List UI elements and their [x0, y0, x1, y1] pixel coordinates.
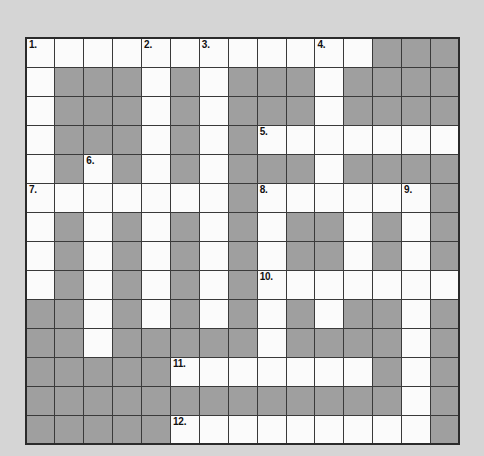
- crossword-cell-open[interactable]: [142, 96, 171, 125]
- crossword-cell-open[interactable]: [142, 212, 171, 241]
- crossword-cell-open[interactable]: [228, 357, 257, 386]
- crossword-cell-open[interactable]: [199, 183, 228, 212]
- crossword-cell-open[interactable]: [402, 328, 431, 357]
- crossword-cell-open[interactable]: [286, 357, 315, 386]
- crossword-cell-open[interactable]: [84, 299, 113, 328]
- crossword-cell-open[interactable]: 11.: [170, 357, 199, 386]
- crossword-cell-open[interactable]: [315, 67, 344, 96]
- crossword-cell-open[interactable]: 4.: [315, 38, 344, 67]
- crossword-cell-open[interactable]: [228, 38, 257, 67]
- crossword-cell-open[interactable]: [315, 183, 344, 212]
- crossword-cell-open[interactable]: [228, 415, 257, 444]
- crossword-cell-open[interactable]: [199, 299, 228, 328]
- crossword-cell-open[interactable]: [315, 357, 344, 386]
- crossword-cell-open[interactable]: [142, 270, 171, 299]
- crossword-cell-open[interactable]: [142, 183, 171, 212]
- crossword-cell-open[interactable]: [199, 96, 228, 125]
- crossword-cell-open[interactable]: 3.: [199, 38, 228, 67]
- crossword-cell-open[interactable]: [199, 67, 228, 96]
- crossword-cell-open[interactable]: [373, 415, 402, 444]
- crossword-cell-open[interactable]: [113, 38, 142, 67]
- crossword-cell-open[interactable]: 12.: [170, 415, 199, 444]
- crossword-cell-open[interactable]: [170, 183, 199, 212]
- crossword-cell-open[interactable]: [344, 415, 373, 444]
- crossword-cell-open[interactable]: [344, 241, 373, 270]
- crossword-cell-open[interactable]: 10.: [257, 270, 286, 299]
- crossword-cell-open[interactable]: [142, 125, 171, 154]
- crossword-cell-open[interactable]: [373, 270, 402, 299]
- crossword-cell-open[interactable]: 9.: [402, 183, 431, 212]
- crossword-cell-open[interactable]: [286, 183, 315, 212]
- crossword-cell-open[interactable]: [199, 241, 228, 270]
- crossword-cell-open[interactable]: [199, 212, 228, 241]
- crossword-cell-open[interactable]: [286, 125, 315, 154]
- crossword-cell-open[interactable]: [257, 212, 286, 241]
- crossword-cell-open[interactable]: [84, 212, 113, 241]
- crossword-cell-open[interactable]: [315, 415, 344, 444]
- crossword-cell-open[interactable]: [257, 357, 286, 386]
- crossword-cell-open[interactable]: 6.: [84, 154, 113, 183]
- crossword-cell-open[interactable]: 1.: [26, 38, 55, 67]
- crossword-cell-open[interactable]: [344, 270, 373, 299]
- crossword-cell-open[interactable]: [26, 241, 55, 270]
- crossword-cell-open[interactable]: 5.: [257, 125, 286, 154]
- crossword-cell-open[interactable]: [286, 415, 315, 444]
- crossword-cell-open[interactable]: [402, 357, 431, 386]
- crossword-cell-open[interactable]: [286, 38, 315, 67]
- crossword-cell-open[interactable]: [142, 241, 171, 270]
- crossword-cell-open[interactable]: [55, 183, 84, 212]
- crossword-cell-open[interactable]: [142, 67, 171, 96]
- crossword-cell-open[interactable]: 8.: [257, 183, 286, 212]
- crossword-cell-open[interactable]: [373, 183, 402, 212]
- crossword-cell-open[interactable]: [199, 415, 228, 444]
- crossword-cell-open[interactable]: [430, 270, 459, 299]
- crossword-cell-open[interactable]: [257, 328, 286, 357]
- crossword-cell-open[interactable]: [26, 212, 55, 241]
- crossword-cell-open[interactable]: [315, 125, 344, 154]
- crossword-cell-open[interactable]: [315, 96, 344, 125]
- crossword-cell-open[interactable]: [84, 241, 113, 270]
- crossword-cell-open[interactable]: [26, 67, 55, 96]
- crossword-cell-open[interactable]: [402, 270, 431, 299]
- crossword-cell-open[interactable]: [199, 270, 228, 299]
- crossword-cell-open[interactable]: [84, 38, 113, 67]
- crossword-cell-open[interactable]: [199, 125, 228, 154]
- crossword-cell-open[interactable]: [257, 415, 286, 444]
- crossword-cell-open[interactable]: [344, 125, 373, 154]
- crossword-cell-open[interactable]: [257, 241, 286, 270]
- crossword-cell-open[interactable]: [344, 212, 373, 241]
- crossword-grid[interactable]: 1.2.3.4.5.6.7.8.9.10.11.12.: [25, 37, 460, 445]
- crossword-cell-open[interactable]: [402, 386, 431, 415]
- crossword-cell-open[interactable]: [344, 357, 373, 386]
- crossword-cell-open[interactable]: [55, 38, 84, 67]
- crossword-cell-open[interactable]: 7.: [26, 183, 55, 212]
- crossword-cell-open[interactable]: [199, 154, 228, 183]
- crossword-cell-open[interactable]: [142, 299, 171, 328]
- crossword-cell-open[interactable]: [26, 270, 55, 299]
- crossword-cell-open[interactable]: [402, 241, 431, 270]
- crossword-cell-open[interactable]: [402, 299, 431, 328]
- crossword-cell-open[interactable]: [199, 357, 228, 386]
- crossword-cell-open[interactable]: [84, 270, 113, 299]
- crossword-cell-open[interactable]: [402, 212, 431, 241]
- crossword-cell-open[interactable]: [142, 154, 171, 183]
- crossword-cell-open[interactable]: [113, 183, 142, 212]
- crossword-cell-open[interactable]: [286, 270, 315, 299]
- crossword-cell-open[interactable]: [344, 38, 373, 67]
- crossword-cell-open[interactable]: [344, 183, 373, 212]
- crossword-cell-open[interactable]: [257, 38, 286, 67]
- crossword-cell-open[interactable]: [315, 299, 344, 328]
- crossword-cell-open[interactable]: [315, 154, 344, 183]
- crossword-cell-open[interactable]: [170, 38, 199, 67]
- crossword-cell-open[interactable]: [315, 270, 344, 299]
- crossword-cell-open[interactable]: [26, 154, 55, 183]
- crossword-cell-open[interactable]: [26, 96, 55, 125]
- crossword-cell-open[interactable]: [26, 125, 55, 154]
- crossword-cell-open[interactable]: [402, 415, 431, 444]
- crossword-cell-open[interactable]: [84, 183, 113, 212]
- crossword-cell-open[interactable]: [257, 299, 286, 328]
- crossword-cell-open[interactable]: 2.: [142, 38, 171, 67]
- crossword-cell-open[interactable]: [84, 328, 113, 357]
- crossword-cell-open[interactable]: [373, 125, 402, 154]
- crossword-cell-open[interactable]: [430, 125, 459, 154]
